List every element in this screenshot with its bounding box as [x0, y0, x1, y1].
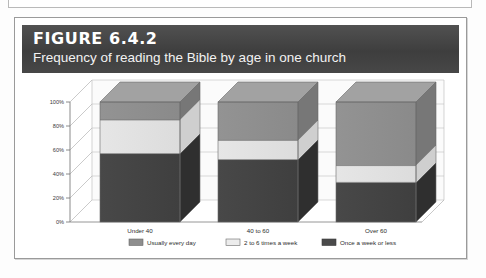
chart-plot-area: 100% 80% 60% 40% 20% 0%	[22, 76, 459, 250]
legend-swatch-usually-every-day	[129, 239, 143, 246]
y-tick-label-40: 40%	[53, 171, 64, 177]
bar-group-over-60	[336, 82, 436, 222]
scan-artifact-top-box	[8, 0, 472, 8]
y-tick-label-0: 0%	[56, 219, 64, 225]
bar-segment-under40-once-a-week-or-less	[100, 154, 180, 222]
chart-legend: Usually every day 2 to 6 times a week On…	[129, 239, 396, 246]
bar-segment-under40-usually-every-day	[100, 102, 180, 120]
y-tick-label-80: 80%	[53, 123, 64, 129]
legend-swatch-2-to-6-times-a-week	[226, 239, 240, 246]
bar-segment-over60-usually-every-day	[336, 102, 416, 166]
legend-label-2-to-6-times-a-week: 2 to 6 times a week	[244, 239, 298, 246]
figure-title-band: FIGURE 6.4.2 Frequency of reading the Bi…	[22, 25, 459, 73]
bar-segment-over60-2-to-6-times	[336, 166, 416, 183]
stacked-bar-chart-svg: 100% 80% 60% 40% 20% 0%	[22, 76, 459, 250]
bar-segment-over60-once-a-week-or-less	[336, 182, 416, 222]
bar-segment-under40-2-to-6-times	[100, 120, 180, 154]
bar-group-under-40	[100, 82, 200, 222]
y-tick-label-60: 60%	[53, 147, 64, 153]
bar-segment-40to60-once-a-week-or-less	[218, 160, 298, 222]
legend-swatch-once-a-week-or-less	[322, 239, 336, 246]
legend-label-usually-every-day: Usually every day	[147, 239, 197, 246]
x-category-label-under-40: Under 40	[127, 227, 153, 234]
chart-axis-connectors	[70, 80, 92, 222]
figure-container: FIGURE 6.4.2 Frequency of reading the Bi…	[14, 17, 467, 259]
bar-segment-40to60-2-to-6-times	[218, 140, 298, 159]
figure-number-label: FIGURE 6.4.2	[33, 29, 158, 48]
x-category-label-40-to-60: 40 to 60	[247, 227, 270, 234]
figure-subtitle: Frequency of reading the Bible by age in…	[33, 50, 346, 65]
bar-segment-40to60-usually-every-day	[218, 102, 298, 140]
y-tick-label-20: 20%	[53, 195, 64, 201]
chart-y-ticks	[66, 102, 70, 222]
bar-group-40-to-60	[218, 82, 318, 222]
legend-label-once-a-week-or-less: Once a week or less	[340, 239, 396, 246]
x-category-label-over-60: Over 60	[365, 227, 388, 234]
y-tick-label-100: 100%	[50, 99, 64, 105]
